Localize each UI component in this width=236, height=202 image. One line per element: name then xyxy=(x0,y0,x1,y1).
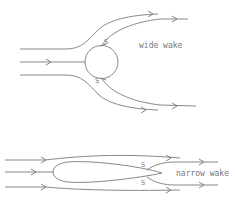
narrow-wake-label: narrow wake xyxy=(176,169,229,178)
circle-body xyxy=(85,46,118,79)
streamline-top xyxy=(5,155,180,160)
separation-point-bottom-2: S xyxy=(141,179,145,187)
flow-diagram: S S wide wake S S narrow wake xyxy=(0,0,236,202)
bluff-body-flow: S S wide wake xyxy=(20,11,196,113)
separation-point-top: S xyxy=(104,38,108,46)
streamlined-body xyxy=(53,162,162,183)
wide-wake-label: wide wake xyxy=(139,41,183,50)
wake-streamline-lower xyxy=(147,177,218,185)
separation-point-top-2: S xyxy=(141,161,145,169)
streamlined-body-flow: S S narrow wake xyxy=(5,155,229,193)
streamline-upper-outer xyxy=(20,14,158,49)
streamline-bottom xyxy=(5,187,180,190)
streamline-lower-outer xyxy=(20,75,158,110)
streamline-lower-inner xyxy=(102,79,196,106)
separation-point-bottom: S xyxy=(95,77,99,85)
